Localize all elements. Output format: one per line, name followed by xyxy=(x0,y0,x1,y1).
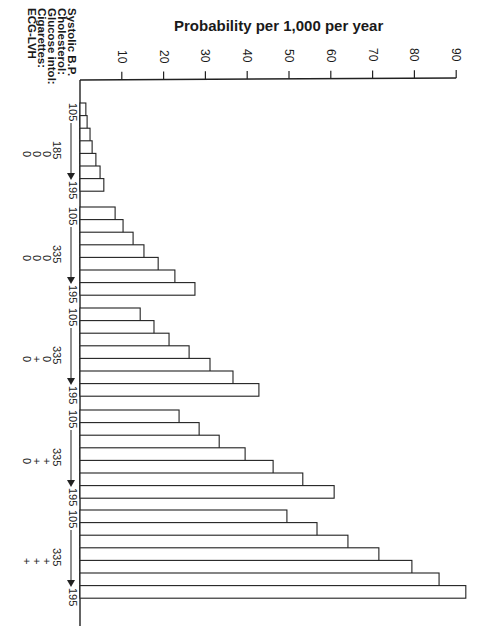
bp-to-label: 195 xyxy=(67,181,79,199)
group-factor-values: 335+++ xyxy=(22,548,62,566)
group-factor-values: 335++0 xyxy=(22,448,62,466)
bars xyxy=(80,103,466,598)
tick-label-10: 10 xyxy=(115,50,129,63)
tick-label-70: 70 xyxy=(366,48,380,61)
bp-from-label: 105 xyxy=(67,510,79,528)
arrow-icon xyxy=(65,328,77,388)
cigarettes-value: + xyxy=(32,346,42,364)
bp-from-label: 105 xyxy=(67,103,79,121)
group-factor-values: 3350+0 xyxy=(22,346,62,364)
ecg-value: 0 xyxy=(22,448,32,466)
bp-to-label: 195 xyxy=(67,488,79,506)
tick-label-80: 80 xyxy=(407,48,421,61)
cholesterol-value: 185 xyxy=(52,141,62,159)
arrow-icon xyxy=(65,530,77,590)
tick-label-20: 20 xyxy=(157,50,171,63)
ecg-value: + xyxy=(22,548,32,566)
group-factor-values: 335000 xyxy=(22,245,62,263)
factor-glucose-intol: Glucose intol: xyxy=(47,8,57,85)
factor-cholesterol: Cholesterol: xyxy=(57,8,67,85)
cholesterol-value: 335 xyxy=(52,245,62,263)
cholesterol-value: 335 xyxy=(52,448,62,466)
bp-to-label: 195 xyxy=(67,386,79,404)
arrow-icon xyxy=(65,430,77,490)
bar-g5-7 xyxy=(80,586,466,599)
ecg-value: 0 xyxy=(22,245,32,263)
ecg-value: 0 xyxy=(22,346,32,364)
bp-to-label: 195 xyxy=(67,588,79,606)
tick-label-40: 40 xyxy=(240,49,254,62)
factor-systolic-bp: Systolic B.P. xyxy=(67,8,77,85)
factor-ecg-lvh: ECG-LVH xyxy=(27,8,37,85)
cigarettes-value: + xyxy=(32,448,42,466)
arrow-icon xyxy=(65,123,77,183)
group-factor-values: 185000 xyxy=(22,141,62,159)
bar-g2-7 xyxy=(80,283,195,296)
bp-to-label: 195 xyxy=(67,285,79,303)
bar-g3-7 xyxy=(80,384,259,397)
factor-labels: Systolic B.P. Cholesterol: Glucose intol… xyxy=(27,8,77,85)
tick-label-90: 90 xyxy=(449,48,463,61)
bp-from-label: 105 xyxy=(67,207,79,225)
tick-label-50: 50 xyxy=(282,49,296,62)
bp-from-label: 105 xyxy=(67,410,79,428)
cholesterol-value: 335 xyxy=(52,548,62,566)
ecg-value: 0 xyxy=(22,141,32,159)
cigarettes-value: 0 xyxy=(32,245,42,263)
cigarettes-value: + xyxy=(32,548,42,566)
chart-title: Probability per 1,000 per year xyxy=(174,17,383,34)
arrow-icon xyxy=(65,227,77,287)
bp-from-label: 105 xyxy=(67,308,79,326)
cholesterol-value: 335 xyxy=(52,346,62,364)
tick-label-60: 60 xyxy=(324,49,338,62)
tick-label-30: 30 xyxy=(198,49,212,62)
cigarettes-value: 0 xyxy=(32,141,42,159)
bar-g1-7 xyxy=(80,179,104,192)
value-axis xyxy=(80,78,456,80)
bar-g4-7 xyxy=(80,486,334,499)
